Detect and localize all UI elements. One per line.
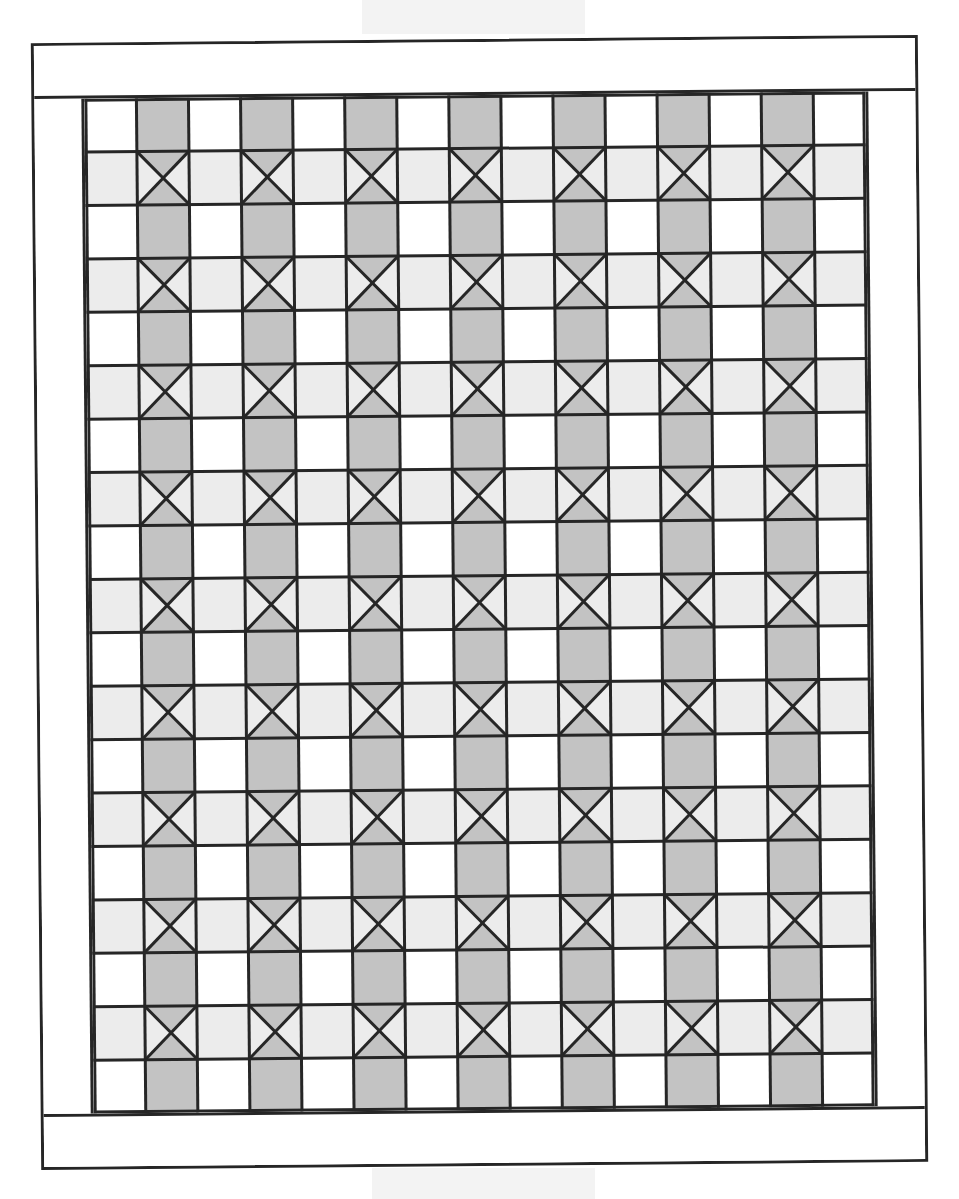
plain-square (502, 201, 555, 255)
plain-square (814, 198, 867, 252)
right-border (865, 91, 924, 1106)
sash-rectangle (456, 843, 509, 897)
sash-rectangle (666, 1054, 719, 1108)
light-square (717, 894, 770, 948)
light-square (191, 364, 244, 418)
sash-rectangle (765, 519, 818, 573)
plain-square (614, 1055, 667, 1109)
plain-square (300, 951, 353, 1005)
sash-rectangle (137, 205, 190, 259)
plain-square (717, 947, 770, 1001)
sash-rectangle (145, 1059, 198, 1113)
sash-rectangle (457, 949, 510, 1003)
sash-rectangle (558, 628, 611, 682)
plain-square (193, 631, 246, 685)
plain-square (608, 414, 661, 468)
plain-square (718, 1054, 771, 1108)
plain-square (196, 952, 249, 1006)
sash-rectangle (242, 204, 295, 258)
plain-square (192, 525, 245, 579)
sash-rectangle (246, 738, 299, 792)
sash-rectangle (560, 842, 613, 896)
sash-rectangle (450, 202, 503, 256)
sash-rectangle (136, 98, 189, 152)
light-square (609, 574, 662, 628)
light-square (611, 788, 664, 842)
light-square (816, 359, 869, 413)
light-square (714, 573, 767, 627)
sash-rectangle (245, 631, 298, 685)
light-square (294, 256, 347, 310)
plain-square (405, 950, 458, 1004)
plain-square (817, 519, 870, 573)
plain-square (188, 97, 241, 151)
light-square (814, 145, 867, 199)
light-square (713, 466, 766, 520)
sash-rectangle (345, 96, 398, 150)
sash-rectangle (454, 629, 507, 683)
light-square (821, 893, 874, 947)
sash-rectangle (247, 845, 300, 899)
sash-rectangle (657, 93, 710, 147)
light-square (403, 790, 456, 844)
plain-square (505, 522, 558, 576)
plain-square (613, 948, 666, 1002)
plain-square (195, 845, 248, 899)
light-square (192, 471, 245, 525)
plain-square (712, 413, 765, 467)
light-square (507, 789, 560, 843)
sash-rectangle (350, 630, 403, 684)
sash-rectangle (553, 94, 606, 148)
light-square (606, 254, 659, 308)
light-square (89, 579, 142, 633)
plain-square (86, 312, 139, 366)
plain-square (611, 734, 664, 788)
light-square (610, 681, 663, 735)
light-square (822, 1000, 875, 1054)
light-square (502, 255, 555, 309)
plain-square (509, 949, 562, 1003)
plain-square (606, 200, 659, 254)
light-square (818, 572, 871, 626)
light-square (715, 680, 768, 734)
plain-square (299, 844, 352, 898)
plain-square (815, 305, 868, 359)
sash-rectangle (665, 948, 718, 1002)
light-square (401, 576, 454, 630)
light-square (86, 258, 139, 312)
sash-rectangle (347, 309, 400, 363)
light-square (398, 256, 451, 310)
light-square (710, 146, 763, 200)
light-square (90, 686, 143, 740)
plain-square (194, 738, 247, 792)
plain-square (296, 417, 349, 471)
sash-rectangle (658, 200, 711, 254)
sash-rectangle (660, 413, 713, 467)
light-square (712, 359, 765, 413)
plain-square (607, 307, 660, 361)
plain-square (610, 628, 663, 682)
light-square (717, 1000, 770, 1054)
light-square (299, 791, 352, 845)
plain-square (818, 626, 871, 680)
plain-square (402, 629, 455, 683)
plain-square (91, 846, 144, 900)
sash-rectangle (241, 97, 294, 151)
sash-rectangle (348, 416, 401, 470)
sash-rectangle (143, 846, 196, 900)
sash-rectangle (141, 632, 194, 686)
plain-square (89, 632, 142, 686)
plain-square (190, 311, 243, 365)
light-square (88, 472, 141, 526)
plain-square (503, 308, 556, 362)
plain-square (404, 843, 457, 897)
light-square (197, 1005, 250, 1059)
light-square (85, 152, 138, 206)
sash-rectangle (770, 1053, 823, 1107)
plain-square (297, 524, 350, 578)
sash-rectangle (242, 310, 295, 364)
plain-square (821, 946, 874, 1000)
light-square (193, 578, 246, 632)
sash-rectangle (555, 307, 608, 361)
sash-rectangle (140, 525, 193, 579)
